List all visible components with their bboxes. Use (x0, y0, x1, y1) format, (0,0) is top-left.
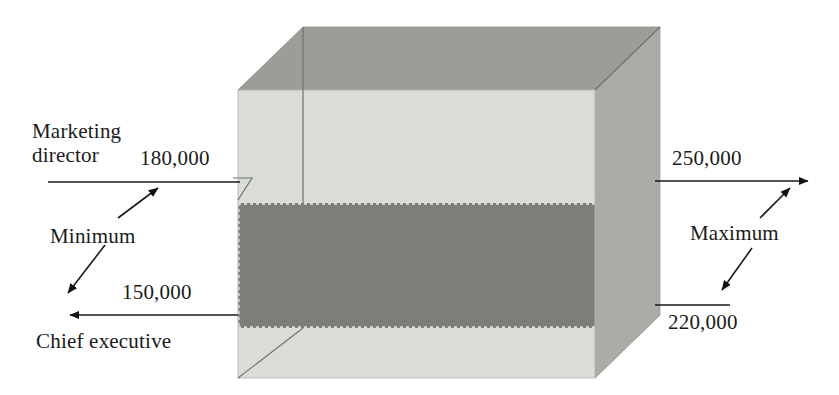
box-front-lower (238, 328, 595, 378)
diagram-canvas: Marketing director 180,000 Minimum 150,0… (0, 0, 839, 395)
arrow-maximum-to-250000 (760, 188, 790, 218)
box-front-upper (238, 90, 595, 203)
arrow-minimum-to-150000 (68, 245, 105, 293)
label-marketing-director: Marketing director (32, 120, 121, 167)
label-minimum: Minimum (50, 225, 135, 249)
label-value-250000: 250,000 (672, 147, 742, 171)
label-chief-executive: Chief executive (36, 330, 171, 354)
box-3d (233, 27, 660, 378)
label-value-220000: 220,000 (668, 311, 738, 335)
label-value-180000: 180,000 (140, 147, 210, 171)
arrow-maximum-to-220000 (722, 248, 752, 290)
label-maximum: Maximum (690, 222, 779, 246)
label-value-150000: 150,000 (122, 281, 192, 305)
arrow-minimum-to-180000 (118, 188, 158, 218)
box-front-band (238, 203, 595, 328)
box-top-face (238, 27, 660, 90)
